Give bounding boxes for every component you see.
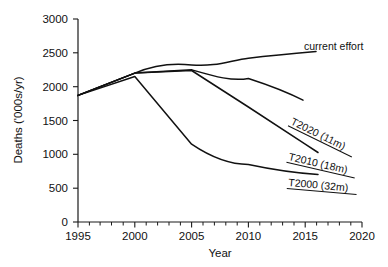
y-axis-title: Deaths ('000s/yr) <box>12 76 24 163</box>
y-tick-500: 500 <box>49 182 68 194</box>
series-label-t2000: T2000 (32m) <box>288 176 349 193</box>
series-label-t2020-group: T2020 (11m) <box>288 115 357 157</box>
y-tick-0: 0 <box>62 216 68 228</box>
x-tick-labels: 1995 2000 2005 2010 2015 2020 <box>65 230 375 242</box>
x-tick-2020: 2020 <box>349 230 375 242</box>
chart-svg: 3000 2500 2000 1500 1000 500 0 <box>0 0 388 267</box>
y-tick-1500: 1500 <box>42 115 68 127</box>
y-tick-marks <box>73 19 78 222</box>
series-label-t2010: T2010 (18m) <box>288 150 349 175</box>
series-label-t2020: T2020 (11m) <box>289 115 348 152</box>
y-tick-2500: 2500 <box>42 47 68 59</box>
x-tick-2005: 2005 <box>179 230 205 242</box>
series-label-t2000-group: T2000 (32m) <box>287 176 358 195</box>
series-label-current-effort: current effort <box>304 40 363 52</box>
x-axis-title: Year <box>208 247 231 259</box>
y-tick-3000: 3000 <box>42 13 68 25</box>
x-tick-1995: 1995 <box>65 230 91 242</box>
x-tick-2000: 2000 <box>122 230 148 242</box>
x-tick-marks <box>78 222 362 228</box>
x-tick-2015: 2015 <box>292 230 318 242</box>
series-line-t2020 <box>78 70 303 100</box>
line-chart: 3000 2500 2000 1500 1000 500 0 <box>0 0 388 267</box>
y-tick-1000: 1000 <box>42 148 68 160</box>
y-tick-labels: 3000 2500 2000 1500 1000 500 0 <box>42 13 68 228</box>
series-labels: current effort T2020 (11m) T2010 (18m) T… <box>286 40 363 195</box>
series-paths <box>78 52 318 175</box>
x-tick-2010: 2010 <box>236 230 262 242</box>
y-tick-2000: 2000 <box>42 81 68 93</box>
